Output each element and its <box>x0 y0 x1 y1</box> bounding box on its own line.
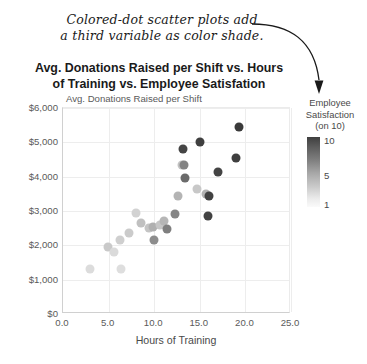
scatter-point <box>131 208 140 217</box>
legend-colorbar-gradient <box>307 137 320 207</box>
y-axis-title: Avg. Donations Raised per Shift <box>66 93 202 104</box>
legend: Employee Satisfaction (on 10) 1051 <box>296 97 364 207</box>
gridline-horizontal <box>63 245 289 246</box>
annotation-callout-text: Colored-dot scatter plots add a third va… <box>42 12 282 44</box>
x-axis-tick-label: 0.0 <box>40 317 84 328</box>
scatter-point <box>86 265 95 274</box>
gridline-horizontal <box>63 177 289 178</box>
scatter-point <box>204 212 213 221</box>
legend-tick-label: 10 <box>324 134 335 145</box>
y-axis-tick-label: $2,000 <box>0 239 58 250</box>
scatter-point <box>180 160 189 169</box>
scatter-point <box>193 184 202 193</box>
x-axis-tick-label: 15.0 <box>177 317 221 328</box>
scatter-point <box>171 210 180 219</box>
scatter-point <box>116 236 125 245</box>
scatter-point <box>117 265 126 274</box>
legend-tick-label: 5 <box>324 170 329 181</box>
scatter-point <box>162 224 171 233</box>
x-axis-title: Hours of Training <box>62 334 290 346</box>
scatter-point <box>179 145 188 154</box>
x-axis-tick-label: 25.0 <box>268 317 312 328</box>
y-axis-tick-label: $3,000 <box>0 205 58 216</box>
scatter-point <box>235 122 244 131</box>
scatter-point <box>204 191 213 200</box>
gridline-horizontal <box>63 280 289 281</box>
gridline-vertical <box>109 108 110 312</box>
gridline-vertical <box>291 108 292 312</box>
scatter-point <box>232 153 241 162</box>
scatter-point <box>214 167 223 176</box>
gridline-vertical <box>245 108 246 312</box>
scatter-point <box>173 191 182 200</box>
scatter-point <box>124 229 133 238</box>
y-axis-tick-label: $6,000 <box>0 102 58 113</box>
scatter-point <box>110 248 119 257</box>
chart-title: Avg. Donations Raised per Shift vs. Hour… <box>14 60 304 92</box>
gridline-horizontal <box>63 142 289 143</box>
scatter-point <box>150 236 159 245</box>
legend-tick-label: 1 <box>324 198 329 209</box>
y-axis-tick-label: $5,000 <box>0 136 58 147</box>
x-axis-tick-label: 10.0 <box>131 317 175 328</box>
gridline-vertical <box>154 108 155 312</box>
scatter-plot-area <box>62 107 290 313</box>
scatter-point <box>195 138 204 147</box>
scatter-point <box>181 174 190 183</box>
x-axis-tick-label: 20.0 <box>222 317 266 328</box>
y-axis-tick-label: $1,000 <box>0 273 58 284</box>
x-axis-tick-label: 5.0 <box>86 317 130 328</box>
legend-title: Employee Satisfaction (on 10) <box>296 97 364 132</box>
legend-colorbar-wrap: 1051 <box>296 137 364 207</box>
y-axis-tick-label: $4,000 <box>0 170 58 181</box>
gridline-horizontal <box>63 108 289 109</box>
